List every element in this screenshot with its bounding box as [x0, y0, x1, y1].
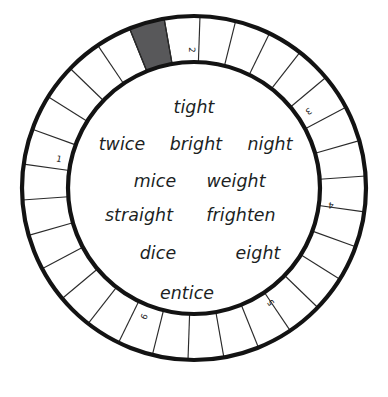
ring-number-2: 2	[187, 47, 197, 53]
word-weight: weight	[206, 171, 266, 191]
word-frighten: frighten	[206, 205, 276, 225]
word-wheel-stage: 123456 tighttwicebrightnightmiceweightst…	[0, 0, 388, 397]
word-bright: bright	[170, 134, 224, 154]
word-twice: twice	[99, 134, 146, 154]
ring-band	[22, 16, 366, 360]
word-eight: eight	[236, 243, 282, 263]
word-entice: entice	[160, 283, 214, 303]
word-wheel-graphic: 123456 tighttwicebrightnightmiceweightst…	[0, 0, 388, 397]
word-dice: dice	[140, 243, 177, 263]
word-straight: straight	[105, 205, 174, 225]
word-night: night	[247, 134, 293, 154]
word-tight: tight	[173, 97, 215, 117]
word-mice: mice	[134, 171, 176, 191]
